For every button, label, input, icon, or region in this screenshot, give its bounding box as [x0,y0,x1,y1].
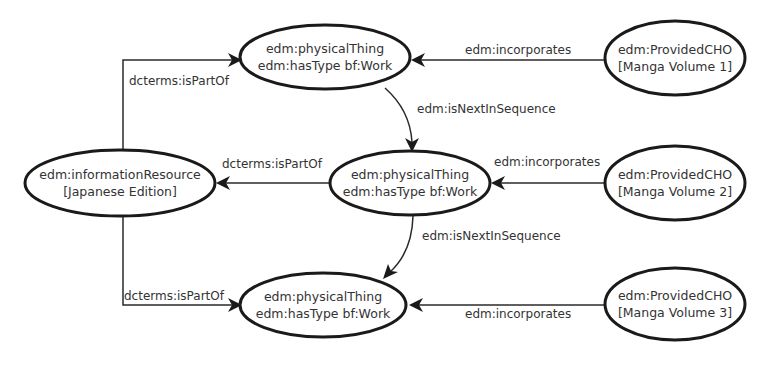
node-label-line2: [Japanese Edition] [63,184,177,199]
rdf-graph-diagram: dcterms:isPartOf dcterms:isPartOf dcterm… [0,0,766,365]
edge-ispartof-mid: dcterms:isPartOf [216,157,330,190]
node-label-line1: edm:physicalThing [264,289,382,304]
edge-label-ispartof-bottom: dcterms:isPartOf [124,289,225,303]
edge-label-ispartof-top: dcterms:isPartOf [129,74,230,88]
edge-label-incorporates-3: edm:incorporates [465,307,571,321]
edge-label-ispartof-mid: dcterms:isPartOf [222,157,323,171]
edge-label-next-2: edm:isNextInSequence [422,229,561,243]
node-label-line2: [Manga Volume 1] [618,59,732,74]
edge-next-in-sequence-2: edm:isNextInSequence [383,216,561,279]
edge-incorporates-2: edm:incorporates [491,155,604,190]
node-label-line2: edm:hasType bf:Work [256,306,391,321]
node-provided-cho-3: edm:ProvidedCHO [Manga Volume 3] [605,268,745,340]
edge-label-next-1: edm:isNextInSequence [417,102,556,116]
edge-incorporates-1: edm:incorporates [411,43,604,67]
node-physical-thing-2: edm:physicalThing edm:hasType bf:Work [330,151,490,215]
node-label-line1: edm:ProvidedCHO [618,288,732,303]
edge-ispartof-top: dcterms:isPartOf [123,53,242,150]
node-physical-thing-3: edm:physicalThing edm:hasType bf:Work [240,273,406,337]
edge-ispartof-bottom: dcterms:isPartOf [123,215,242,312]
node-information-resource: edm:informationResource [Japanese Editio… [25,150,215,216]
node-label-line1: edm:physicalThing [351,167,469,182]
node-label-line1: edm:informationResource [39,167,201,182]
node-provided-cho-1: edm:ProvidedCHO [Manga Volume 1] [605,21,745,95]
node-label-line2: [Manga Volume 3] [618,305,732,320]
node-label-line2: edm:hasType bf:Work [258,58,393,73]
edge-next-in-sequence-1: edm:isNextInSequence [385,88,556,152]
node-label-line2: edm:hasType bf:Work [343,184,478,199]
node-provided-cho-2: edm:ProvidedCHO [Manga Volume 2] [605,146,745,220]
node-physical-thing-1: edm:physicalThing edm:hasType bf:Work [240,25,410,89]
node-label-line1: edm:ProvidedCHO [618,167,732,182]
node-label-line2: [Manga Volume 2] [618,184,732,199]
node-label-line1: edm:ProvidedCHO [618,42,732,57]
edge-incorporates-3: edm:incorporates [409,298,604,321]
edge-label-incorporates-2: edm:incorporates [494,155,600,169]
edge-label-incorporates-1: edm:incorporates [465,43,571,57]
node-label-line1: edm:physicalThing [266,41,384,56]
